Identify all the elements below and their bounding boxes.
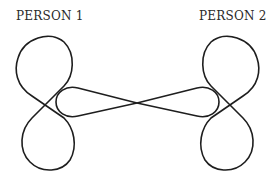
- right-connecting-loop: [137, 87, 219, 116]
- loops-diagram: [0, 0, 275, 181]
- person-2-figure-eight: [201, 36, 259, 170]
- person-1-figure-eight: [16, 36, 74, 170]
- left-connecting-loop: [56, 87, 137, 116]
- diagram-canvas: PERSON 1 PERSON 2: [0, 0, 275, 181]
